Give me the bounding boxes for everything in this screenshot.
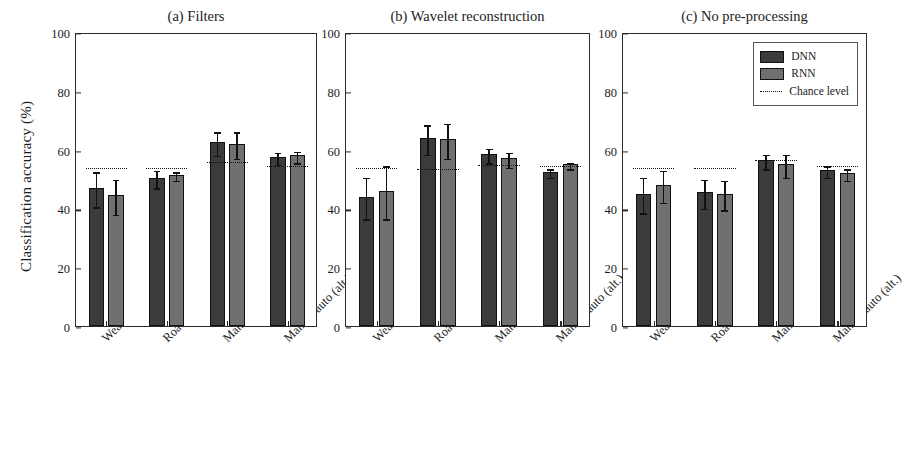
error-bar-line [765, 155, 766, 170]
error-bar-cap-lower [640, 213, 647, 214]
bar-rnn-c-1 [717, 194, 733, 326]
y-tick-label: 20 [605, 262, 624, 277]
error-bar-line [785, 155, 786, 179]
legend-item-chance-level[interactable]: Chance level [760, 83, 849, 100]
error-bar-cap-lower [844, 181, 851, 182]
plot-area-c: 020406080100DNNRNNChance level [622, 33, 867, 327]
x-tick-mark [837, 321, 838, 326]
x-tick-mark [776, 321, 777, 326]
error-bar-cap-lower [660, 203, 667, 204]
error-bar-cap-upper [763, 155, 770, 156]
legend-label: RNN [791, 65, 815, 82]
error-bar-cap-lower [763, 169, 770, 170]
error-bar-line [827, 166, 828, 178]
chance-level-line [817, 166, 859, 167]
y-tick-mark [623, 33, 628, 34]
bar-dnn-c-2 [758, 160, 774, 326]
panel-title-c: (c) No pre-processing [622, 8, 867, 25]
y-tick-mark [623, 210, 628, 211]
chance-level-line [694, 168, 736, 169]
error-bar-line [663, 171, 664, 203]
y-tick-label: 60 [605, 144, 624, 159]
bar-dnn-c-3 [820, 170, 836, 326]
legend-item-rnn[interactable]: RNN [760, 65, 849, 82]
legend-label: Chance level [789, 83, 849, 100]
legend-swatch-rnn-icon [760, 68, 784, 80]
legend-swatch-dnn-icon [760, 51, 784, 63]
bar-rnn-c-2 [778, 164, 794, 326]
legend-label: DNN [791, 48, 816, 65]
error-bar-line [724, 181, 725, 210]
bar-rnn-c-0 [656, 185, 672, 326]
y-tick-label: 80 [605, 85, 624, 100]
chart-legend: DNNRNNChance level [753, 42, 858, 106]
error-bar-cap-upper [640, 178, 647, 179]
y-tick-mark [623, 269, 628, 270]
y-tick-label: 40 [605, 203, 624, 218]
legend-item-dnn[interactable]: DNN [760, 48, 849, 65]
bar-rnn-c-3 [840, 173, 856, 326]
error-bar-cap-lower [824, 178, 831, 179]
y-tick-label: 100 [598, 27, 623, 42]
error-bar-cap-lower [783, 178, 790, 179]
y-tick-mark [623, 327, 628, 328]
error-bar-line [704, 180, 705, 209]
legend-swatch-chance-level-icon [760, 91, 782, 92]
bar-dnn-c-1 [697, 192, 713, 326]
error-bar-cap-upper [783, 155, 790, 156]
y-tick-mark [623, 92, 628, 93]
x-tick-mark [715, 321, 716, 326]
error-bar-cap-lower [701, 209, 708, 210]
chance-level-line [755, 160, 797, 161]
error-bar-line [643, 178, 644, 213]
x-tick-mark [654, 321, 655, 326]
error-bar-cap-upper [660, 171, 667, 172]
error-bar-cap-lower [721, 210, 728, 211]
error-bar-line [847, 169, 848, 181]
error-bar-cap-upper [721, 181, 728, 182]
chance-level-line [633, 168, 675, 169]
y-tick-label: 0 [611, 321, 623, 336]
y-tick-mark [623, 151, 628, 152]
error-bar-cap-upper [701, 180, 708, 181]
error-bar-cap-upper [844, 169, 851, 170]
